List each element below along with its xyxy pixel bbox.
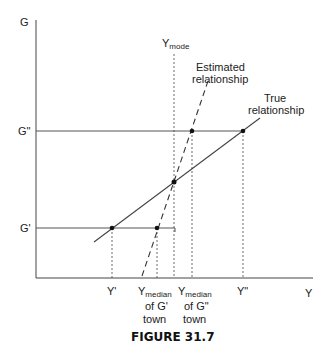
tick-g-double-prime: G" (18, 125, 31, 137)
estimated-relationship-line (142, 78, 209, 276)
y-mode-label: Ymode (162, 37, 190, 51)
tick-y-median-g-prime: Ymedian (138, 285, 172, 299)
tick-y-median-g-double-prime: Ymedian (178, 285, 212, 299)
y-axis-label: G (20, 16, 29, 28)
point-median-g-prime (155, 226, 160, 231)
true-label-line2: relationship (248, 104, 304, 116)
point-median-g-double-prime (190, 129, 195, 134)
tick-y-double-prime: Y" (237, 285, 248, 297)
true-relationship-line (94, 118, 260, 242)
tick-y-median-g-double-prime-line3: town (183, 313, 206, 325)
x-axis-label: Y (305, 287, 313, 299)
tick-y-median-g-prime-line2: of G' (145, 300, 168, 312)
tick-y-prime: Y' (107, 285, 116, 297)
point-intersection (172, 180, 177, 185)
tick-y-median-g-prime-line3: town (143, 313, 166, 325)
figure-caption: FIGURE 31.7 (131, 330, 214, 344)
point-y-double-prime (241, 129, 246, 134)
estimated-label-line2: relationship (192, 73, 248, 85)
tick-g-prime: G' (20, 222, 31, 234)
estimated-label-line1: Estimated (196, 61, 245, 73)
figure-diagram: G Y G" G' Y' Ymedian of G' town Ymedian … (0, 0, 335, 350)
tick-y-median-g-double-prime-line2: of G" (184, 300, 209, 312)
point-y-prime-g-prime (110, 226, 115, 231)
true-label-line1: True (264, 92, 286, 104)
